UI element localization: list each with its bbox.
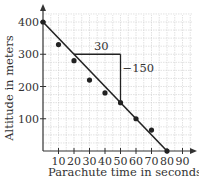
y-tick-label: 100 xyxy=(18,113,39,126)
x-axis-label: Parachute time in seconds xyxy=(48,165,199,179)
rise-label: −150 xyxy=(123,61,155,75)
data-point xyxy=(56,42,61,47)
chart: 102030405060708090100200300400 30−150 Pa… xyxy=(0,0,199,186)
grid xyxy=(43,14,192,151)
data-point xyxy=(71,58,76,63)
y-tick-label: 200 xyxy=(18,81,39,94)
data-point xyxy=(102,90,107,95)
y-tick-label: 300 xyxy=(18,48,39,61)
y-axis-arrow-icon xyxy=(40,4,46,11)
data-point xyxy=(133,116,138,121)
y-tick-label: 400 xyxy=(18,16,39,29)
axes xyxy=(40,4,197,154)
data-point xyxy=(40,19,45,24)
slope-annotations: 30−150 xyxy=(74,39,154,102)
run-label: 30 xyxy=(94,39,109,53)
x-axis-arrow-icon xyxy=(190,148,197,154)
data-point xyxy=(164,148,169,153)
data-point xyxy=(87,77,92,82)
y-axis-label: Altitude in meters xyxy=(2,35,16,142)
data-point xyxy=(149,127,154,132)
